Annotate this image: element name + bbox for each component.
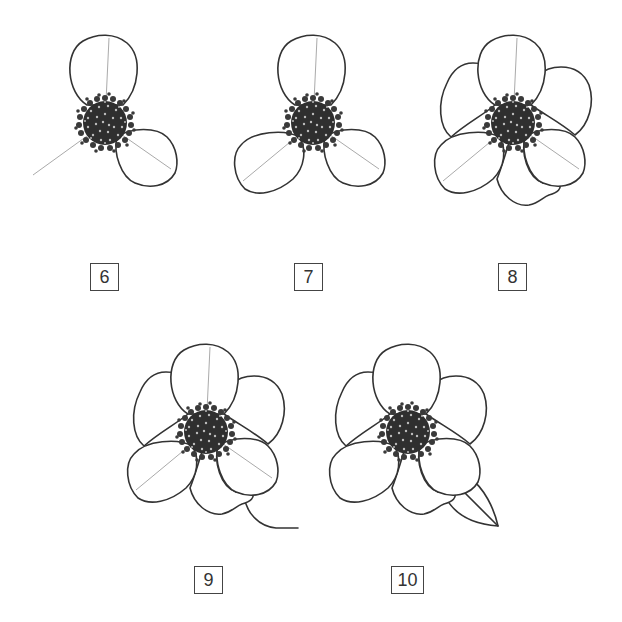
step-number: 8 <box>507 267 517 288</box>
flower-step-6 <box>33 35 177 186</box>
step-number: 10 <box>397 570 417 591</box>
step-label-9: 9 <box>194 566 223 594</box>
flower-step-7 <box>235 35 385 193</box>
step-label-10: 10 <box>391 566 424 594</box>
flower-step-9 <box>128 344 298 528</box>
step-number: 9 <box>203 570 213 591</box>
step-label-6: 6 <box>90 263 119 291</box>
flower-steps-diagram <box>0 0 622 622</box>
step-number: 6 <box>99 267 109 288</box>
step-label-7: 7 <box>294 263 323 291</box>
flower-step-10 <box>330 344 498 526</box>
step-number: 7 <box>303 267 313 288</box>
step-label-8: 8 <box>498 263 527 291</box>
flower-step-8 <box>435 35 592 205</box>
